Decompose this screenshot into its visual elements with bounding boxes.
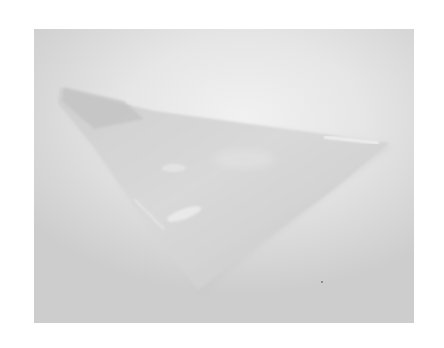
triangle-object xyxy=(34,29,414,323)
photograph xyxy=(34,29,414,323)
